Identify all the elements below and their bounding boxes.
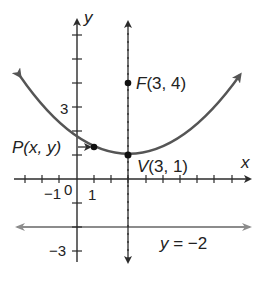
vertex-label: V(3, 1) bbox=[137, 157, 188, 176]
origin-label: 0 bbox=[64, 181, 72, 198]
tick-label-x-neg1: −1 bbox=[44, 185, 61, 202]
tick-label-y-3: 3 bbox=[60, 100, 68, 117]
p-name: P bbox=[12, 138, 24, 157]
directrix-label: y = −2 bbox=[159, 234, 207, 253]
parabola-diagram: y x 3 −3 0 1 −1 F(3, 4) V(3, 1) P(x, y) … bbox=[0, 0, 271, 284]
focus-point bbox=[125, 80, 132, 87]
focus-coords: (3, 4) bbox=[146, 74, 186, 93]
tick-label-y-neg3: −3 bbox=[49, 242, 66, 259]
vertex-point bbox=[125, 152, 132, 159]
directrix-eq: = −2 bbox=[169, 234, 208, 253]
general-point-p bbox=[91, 144, 98, 151]
y-axis-label: y bbox=[83, 8, 94, 27]
p-coords: (x, y) bbox=[23, 138, 61, 157]
y-axis bbox=[72, 20, 82, 262]
x-axis-label: x bbox=[240, 153, 250, 172]
tick-label-x-1: 1 bbox=[88, 186, 96, 203]
x-axis bbox=[14, 175, 250, 183]
vertex-coords: (3, 1) bbox=[148, 157, 188, 176]
general-point-label: P(x, y) bbox=[12, 138, 61, 157]
focus-label: F(3, 4) bbox=[136, 74, 186, 93]
